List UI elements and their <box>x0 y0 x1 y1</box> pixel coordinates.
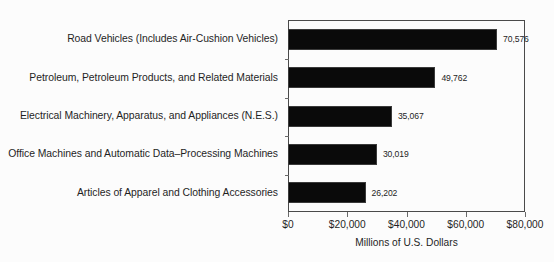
category-label-office-machines: Office Machines and Automatic Data–Proce… <box>0 148 278 159</box>
x-axis-tick-label: $20,000 <box>329 219 366 231</box>
x-axis-tick <box>407 212 408 217</box>
x-axis-tick-label: $40,000 <box>388 219 425 231</box>
bar-row: 30,019 <box>288 144 525 165</box>
bar <box>288 106 392 127</box>
bar-row: 49,762 <box>288 67 525 88</box>
y-axis-tick <box>285 175 289 176</box>
y-axis-tick <box>285 59 289 60</box>
category-axis-labels: Road Vehicles (Includes Air-Cushion Vehi… <box>0 20 283 212</box>
bar-row: 70,576 <box>288 29 525 50</box>
y-axis-tick <box>285 98 289 99</box>
category-label-petroleum: Petroleum, Petroleum Products, and Relat… <box>0 72 278 83</box>
category-label-electrical-machinery: Electrical Machinery, Apparatus, and App… <box>0 110 278 121</box>
bar-value-label: 70,576 <box>503 35 529 44</box>
x-axis-tick-label: $60,000 <box>447 219 484 231</box>
x-axis-tick <box>347 212 348 217</box>
category-label-apparel: Articles of Apparel and Clothing Accesso… <box>0 187 278 198</box>
x-axis-title: Millions of U.S. Dollars <box>288 237 525 249</box>
bar <box>288 29 497 50</box>
x-axis: Millions of U.S. Dollars $0$20,000$40,00… <box>288 212 525 262</box>
bar <box>288 144 377 165</box>
bar-row: 26,202 <box>288 182 525 203</box>
x-axis-tick <box>525 212 526 217</box>
bar <box>288 182 366 203</box>
bar-value-label: 26,202 <box>372 188 398 197</box>
y-axis-tick <box>285 136 289 137</box>
bar-row: 35,067 <box>288 106 525 127</box>
bar-value-label: 30,019 <box>383 150 409 159</box>
x-axis-tick-label: $80,000 <box>507 219 544 231</box>
bar-value-label: 35,067 <box>398 112 424 121</box>
x-axis-tick-label: $0 <box>282 219 293 231</box>
x-axis-tick <box>466 212 467 217</box>
horizontal-bar-chart: Road Vehicles (Includes Air-Cushion Vehi… <box>0 0 554 262</box>
category-label-road-vehicles: Road Vehicles (Includes Air-Cushion Vehi… <box>0 33 278 44</box>
x-axis-tick <box>288 212 289 217</box>
bar <box>288 67 435 88</box>
bar-value-label: 49,762 <box>441 73 467 82</box>
